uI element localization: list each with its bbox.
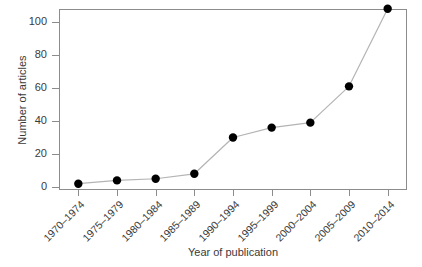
y-tick-label: 100 [21, 16, 47, 27]
y-tick-mark [52, 55, 59, 56]
plot-series-layer [59, 9, 407, 190]
series-data-point [306, 118, 314, 126]
y-tick-mark [52, 187, 59, 188]
y-tick-label: 40 [21, 115, 47, 126]
x-tick-mark [194, 190, 195, 196]
series-data-point [74, 180, 82, 188]
y-tick-mark [52, 88, 59, 89]
series-data-point [267, 123, 275, 131]
x-tick-mark [388, 190, 389, 196]
x-tick-mark [78, 190, 79, 196]
y-tick-label: 60 [21, 82, 47, 93]
series-data-point [113, 176, 121, 184]
x-tick-mark [233, 190, 234, 196]
y-tick-label: 80 [21, 49, 47, 60]
x-tick-mark [117, 190, 118, 196]
x-axis-title: Year of publication [59, 245, 407, 259]
y-tick-mark [52, 22, 59, 23]
y-tick-mark [52, 154, 59, 155]
series-data-point [190, 170, 198, 178]
series-data-point [229, 133, 237, 141]
line-chart-figure: Number of articles 020406080100 1970–197… [0, 0, 422, 267]
y-tick-label: 0 [21, 181, 47, 192]
series-point-group [74, 5, 392, 188]
x-tick-mark [349, 190, 350, 196]
series-data-point [151, 175, 159, 183]
series-line [78, 9, 387, 184]
y-tick-mark [52, 121, 59, 122]
y-tick-label: 20 [21, 148, 47, 159]
series-data-point [345, 82, 353, 90]
x-tick-mark [310, 190, 311, 196]
x-tick-mark [156, 190, 157, 196]
series-data-point [383, 5, 391, 13]
x-tick-mark [272, 190, 273, 196]
